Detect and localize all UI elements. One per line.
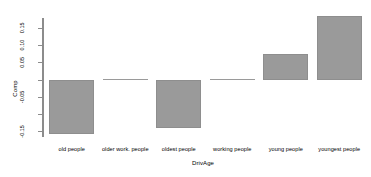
y-axis-tick	[38, 131, 43, 132]
y-axis-tick	[38, 62, 43, 63]
y-axis-tick	[38, 45, 43, 46]
x-axis-title: DrivAge	[43, 159, 363, 167]
y-axis-tick	[38, 80, 43, 81]
y-axis-tick	[38, 114, 43, 115]
bar	[317, 16, 362, 80]
x-axis-tick-label: young people	[259, 145, 313, 153]
x-axis-tick-label: old people	[45, 145, 99, 153]
y-axis-tick-label: -0.15	[18, 111, 27, 151]
x-axis-tick-label: working people	[206, 145, 260, 153]
x-axis-tick-label: youngest people	[313, 145, 367, 153]
bar	[263, 54, 308, 80]
bar	[210, 79, 255, 80]
bar	[103, 79, 148, 80]
bar	[156, 80, 201, 129]
bar	[49, 80, 94, 135]
x-axis-tick-label: oldest people	[152, 145, 206, 153]
x-axis-tick-label: older work. people	[99, 145, 153, 153]
bar-chart: Comp 0.150.100.05-0.05-0.15 old peopleol…	[0, 0, 371, 177]
y-axis-line	[42, 18, 44, 137]
y-axis-tick	[38, 97, 43, 98]
y-axis-tick	[38, 28, 43, 29]
